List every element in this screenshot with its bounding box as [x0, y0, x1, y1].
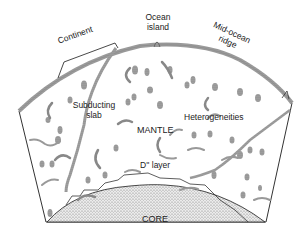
label-ocean-island-line1: Ocean — [138, 12, 178, 22]
surface-lithosphere — [19, 45, 292, 111]
label-ocean-island: Ocean island — [138, 12, 178, 32]
mantle-diagram: Continent Ocean island Mid-ocean ridge S… — [0, 0, 306, 249]
label-d-layer: D'' layer — [140, 160, 170, 170]
label-heterogeneities: Heterogeneities — [184, 112, 244, 122]
heterogeneity-crescents — [48, 62, 208, 200]
label-subducting-slab-line2: slab — [68, 110, 120, 120]
label-core: CORE — [142, 214, 168, 224]
label-subducting-slab-line1: Subducting — [68, 100, 120, 110]
label-mantle: MANTLE — [137, 125, 174, 135]
label-subducting-slab: Subducting slab — [68, 100, 120, 120]
label-ocean-island-line2: island — [138, 22, 178, 32]
